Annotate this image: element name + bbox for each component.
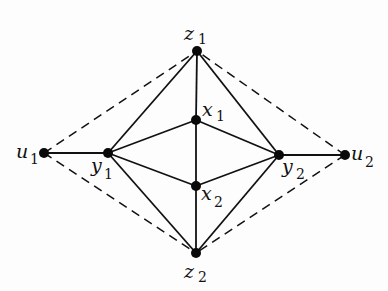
dashed-edge-u1-z2 [44, 153, 196, 253]
label-y2: y [281, 155, 293, 177]
label-y1: y [90, 154, 102, 176]
label-subscript-y1: 1 [104, 166, 113, 182]
graph-diagram: z1x1u1y1y2u2x2z2 [0, 0, 388, 291]
node-y1 [103, 148, 113, 158]
solid-edge-z1-x1 [196, 51, 197, 120]
label-u2: u [351, 142, 363, 164]
label-z2: z [183, 260, 195, 282]
node-x1 [191, 115, 201, 125]
label-subscript-x2: 2 [214, 194, 223, 210]
edges-layer [44, 51, 345, 253]
solid-edge-y2-x1 [196, 120, 279, 155]
dashed-edge-u2-z1 [197, 51, 345, 155]
node-u1 [39, 148, 49, 158]
label-x2: x [201, 182, 212, 204]
label-subscript-y2: 2 [296, 166, 305, 182]
label-subscript-u1: 1 [30, 151, 39, 167]
label-subscript-z1: 1 [198, 31, 207, 47]
solid-edge-y1-x1 [108, 120, 196, 153]
solid-edge-y1-x2 [108, 153, 196, 186]
label-subscript-x1: 1 [216, 108, 225, 124]
label-u1: u [16, 140, 28, 162]
graph-svg: z1x1u1y1y2u2x2z2 [0, 0, 388, 291]
label-z1: z [183, 22, 195, 44]
node-z1 [192, 46, 202, 56]
nodes-layer [39, 46, 350, 258]
node-x2 [191, 181, 201, 191]
node-z2 [191, 248, 201, 258]
node-u2 [340, 150, 350, 160]
label-subscript-z2: 2 [198, 269, 207, 285]
label-x1: x [202, 98, 213, 120]
label-subscript-u2: 2 [365, 154, 374, 170]
